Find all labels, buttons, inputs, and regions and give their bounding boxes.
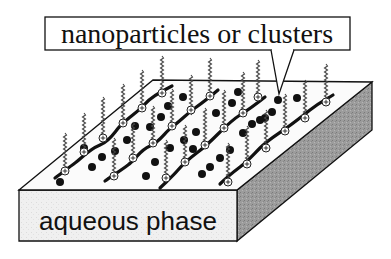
- langmuir-film-diagram: nanoparticles or clusters aqueous phase: [0, 0, 391, 259]
- callout-label: nanoparticles or clusters: [61, 18, 333, 49]
- slab-label: aqueous phase: [39, 206, 217, 236]
